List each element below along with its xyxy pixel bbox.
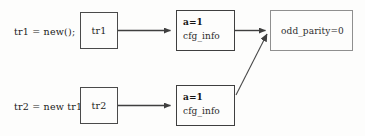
object-box-tr1[interactable]: a=1 cfg_info [176, 10, 235, 51]
statement-tr1: tr1 = new(); [14, 26, 75, 37]
object-box-tr2-field-a: a=1 [183, 91, 234, 104]
arrow-object-tr2-to-shared-object [236, 34, 267, 95]
object-box-tr2[interactable]: a=1 cfg_info [176, 85, 235, 126]
object-box-tr1-field-cfg-info: cfg_info [183, 29, 234, 43]
handle-box-tr2[interactable]: tr2 [80, 87, 118, 124]
handle-box-tr1[interactable]: tr1 [80, 12, 118, 49]
object-reference-diagram: tr1 = new(); tr1 a=1 cfg_info odd_parity… [0, 0, 365, 136]
shared-config-object-label: odd_parity=0 [281, 26, 344, 36]
object-box-tr1-field-a: a=1 [183, 16, 234, 29]
statement-tr2: tr2 = new tr1; [14, 101, 86, 112]
shared-config-object-box[interactable]: odd_parity=0 [270, 10, 353, 51]
object-box-tr2-field-cfg-info: cfg_info [183, 104, 234, 118]
handle-box-tr2-label: tr2 [91, 100, 106, 111]
handle-box-tr1-label: tr1 [91, 25, 106, 36]
